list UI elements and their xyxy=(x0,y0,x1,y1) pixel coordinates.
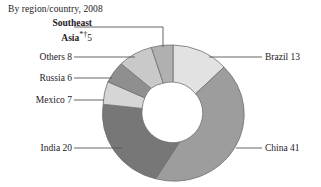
slice-label-india: India 20 xyxy=(0,143,72,154)
slice-label-others: Others 8 xyxy=(0,52,72,63)
donut-chart-figure: By region/country, 2008 xyxy=(0,0,321,187)
slice-label-southeast-asia-word: Asia xyxy=(61,33,79,43)
slice-label-southeast-asia-line1: Southeast xyxy=(0,18,92,29)
slice-label-southeast-asia-value: 5 xyxy=(87,33,92,43)
slice-label-southeast-asia-line2: Asia*†5 xyxy=(0,29,92,44)
slice-label-brazil: Brazil 13 xyxy=(265,52,300,63)
slice-label-china: China 41 xyxy=(265,143,300,154)
slice-label-mexico: Mexico 7 xyxy=(0,95,72,106)
donut-slices xyxy=(102,45,244,181)
slice-label-southeast-asia: Southeast Asia*†5 xyxy=(0,18,92,44)
slice-label-russia: Russia 6 xyxy=(0,73,72,84)
